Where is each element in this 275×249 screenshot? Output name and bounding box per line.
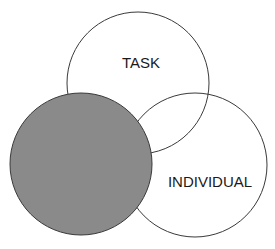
- venn-diagram: TASK INDIVIDUAL: [0, 0, 275, 249]
- team-circle-highlighted: [10, 93, 152, 235]
- task-label: TASK: [122, 54, 160, 71]
- individual-label: INDIVIDUAL: [168, 173, 252, 190]
